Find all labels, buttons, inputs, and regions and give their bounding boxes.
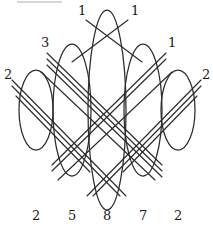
bottom-label-3: 8	[103, 209, 111, 222]
chord-three-1	[47, 53, 162, 165]
edge-label-top-left: 1	[78, 4, 86, 17]
chord-sec-4	[41, 72, 155, 180]
bottom-label-4: 7	[139, 209, 147, 222]
edge-label-mid-left: 2	[4, 68, 12, 81]
bottom-label-2: 5	[68, 209, 76, 222]
chord-group-two-right	[87, 80, 201, 196]
chord-one-right-1	[52, 53, 166, 165]
chord-three-2	[47, 59, 162, 171]
knot-diagram-figure: 1 1 3 1 2 2 2 5 8 7 2	[0, 0, 213, 230]
chord-three-3	[47, 65, 162, 177]
chord-group-one-right	[52, 53, 166, 171]
edge-label-upper-right: 1	[168, 36, 176, 49]
chord-group-two-left	[12, 80, 126, 196]
chord-two-left-1	[12, 80, 126, 196]
diagram-canvas	[0, 0, 213, 230]
edge-label-mid-right: 2	[202, 68, 210, 81]
chord-two-right-2	[93, 86, 201, 196]
edge-label-top-right: 1	[131, 4, 139, 17]
chord-one-right-2	[52, 59, 166, 171]
bottom-label-1: 2	[32, 209, 40, 222]
chord-top-b	[72, 20, 128, 62]
bottom-label-5: 2	[174, 209, 182, 222]
top-artifact-bar	[17, 1, 62, 3]
chord-top-a	[86, 20, 142, 62]
chord-two-right-1	[87, 80, 201, 196]
chord-group-secondary	[16, 72, 197, 180]
edge-label-upper-left: 3	[41, 36, 49, 49]
